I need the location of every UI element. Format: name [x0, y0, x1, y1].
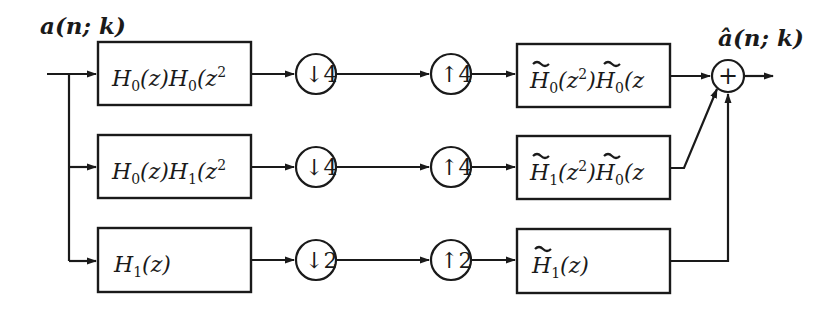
upsample-label-1: ↑4	[440, 62, 472, 87]
analysis-filter-label-1: H0(z)H0(z2	[111, 64, 226, 94]
arrow-synth-to-sum-2	[670, 89, 717, 168]
downsample-label-3: ↓2	[305, 248, 337, 273]
downsample-label-1: ↓4	[305, 62, 337, 87]
output-signal-label: â(n; k)	[718, 24, 804, 51]
synthesis-filter-label-1: H0(z2)H0(z	[529, 66, 645, 96]
analysis-filter-label-2: H0(z)H1(z2	[111, 157, 226, 187]
analysis-filter-label-3: H1(z)	[113, 252, 171, 280]
input-connections	[47, 74, 96, 261]
arrow-synth-to-sum-3	[670, 94, 728, 261]
synthesis-filter-label-3: H1(z)	[531, 253, 589, 281]
input-signal-label: a(n; k)	[40, 12, 126, 39]
plus-icon: +	[718, 62, 738, 90]
branch-row-1: H0(z)H0(z2 ↓4 ↑4 H0(z2)H0(z	[98, 42, 710, 107]
upsample-label-2: ↑4	[440, 155, 472, 180]
upsample-label-3: ↑2	[440, 248, 472, 273]
summation-node: + â(n; k)	[712, 24, 804, 92]
downsample-label-2: ↓4	[305, 155, 337, 180]
synthesis-filter-label-2: H1(z2)H0(z	[529, 158, 645, 188]
filter-bank-diagram: a(n; k) H0(z)H0(z2 ↓4 ↑4 H0(z2)H0(z H0(z…	[0, 0, 836, 315]
